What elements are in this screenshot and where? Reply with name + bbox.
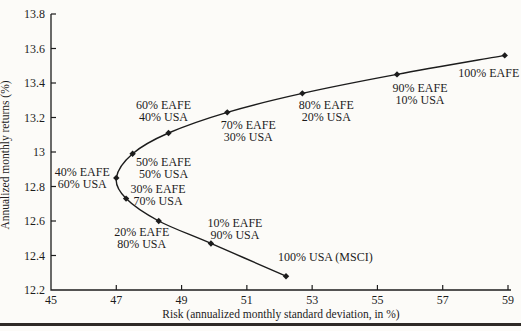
data-point-marker <box>224 109 230 115</box>
bottom-rule <box>0 323 521 326</box>
y-tick-label: 12.6 <box>24 214 45 228</box>
point-label: 30% USA <box>224 130 273 144</box>
data-point-marker <box>502 52 508 58</box>
point-label: 80% USA <box>117 237 166 251</box>
point-label: 100% USA (MSCI) <box>278 250 373 264</box>
data-point-marker <box>113 175 119 181</box>
efficient-frontier-figure: 454749515355575913.813.613.413.21312.812… <box>0 0 521 331</box>
y-tick-label: 13.6 <box>24 42 45 56</box>
x-tick-label: 47 <box>110 293 122 307</box>
x-tick-label: 53 <box>306 293 318 307</box>
point-label: 40% USA <box>139 110 188 124</box>
y-axis-title: Annualized monthly returns (%) <box>0 80 12 229</box>
y-tick-label: 12.8 <box>24 180 45 194</box>
point-label: 90% USA <box>210 228 259 242</box>
data-point-marker <box>299 90 305 96</box>
point-label: 20% USA <box>302 110 351 124</box>
data-point-marker <box>394 71 400 77</box>
x-tick-label: 49 <box>176 293 188 307</box>
y-tick-label: 13.8 <box>24 7 45 21</box>
y-tick-label: 13.4 <box>24 76 45 90</box>
x-tick-label: 51 <box>241 293 253 307</box>
efficient-frontier-chart: 454749515355575913.813.613.413.21312.812… <box>0 0 521 331</box>
data-point-marker <box>283 273 289 279</box>
point-label: 60% USA <box>58 177 107 191</box>
data-point-marker <box>165 130 171 136</box>
data-point-marker <box>156 218 162 224</box>
y-tick-label: 12.4 <box>24 249 45 263</box>
point-label: 50% USA <box>139 167 188 181</box>
tick-labels: 454749515355575913.813.613.413.21312.812… <box>24 7 514 307</box>
x-tick-label: 57 <box>437 293 449 307</box>
point-label: 70% USA <box>134 194 183 208</box>
point-label: 10% USA <box>396 93 445 107</box>
x-axis-title: Risk (annualized monthly standard deviat… <box>162 308 399 321</box>
y-tick-label: 13.2 <box>24 111 45 125</box>
x-tick-label: 59 <box>502 293 514 307</box>
x-tick-label: 45 <box>45 293 57 307</box>
point-labels: 100% USA (MSCI)10% EAFE90% USA20% EAFE80… <box>55 66 519 264</box>
y-tick-label: 12.2 <box>24 283 45 297</box>
point-label: 100% EAFE <box>458 66 519 80</box>
y-tick-label: 13 <box>33 145 45 159</box>
x-tick-label: 55 <box>371 293 383 307</box>
